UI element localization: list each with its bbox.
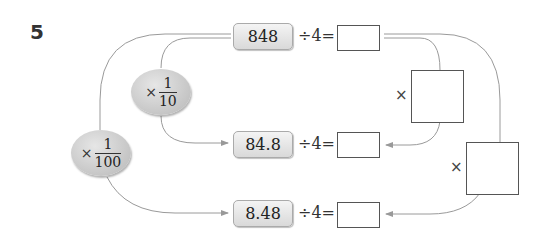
problem-5-diagram: 5 848 ÷4= 84.8 ÷4= 8.48 ÷4= × 1 10 × 1 1…	[0, 0, 549, 244]
value-chip-8-48: 8.48	[233, 200, 293, 227]
problem-number: 5	[30, 20, 44, 44]
answer-box-row1[interactable]	[337, 25, 380, 51]
multiplier-answer-box-2[interactable]	[466, 142, 519, 195]
answer-box-row2[interactable]	[337, 132, 380, 158]
multiplier-oval-one-tenth: × 1 10	[131, 69, 191, 115]
times-symbol: ×	[450, 158, 463, 176]
divide-by-4-label: ÷4=	[298, 134, 335, 153]
multiplier-oval-one-hundredth: × 1 100	[71, 130, 131, 176]
numerator: 1	[103, 137, 112, 152]
times-symbol: ×	[145, 84, 157, 100]
value-chip-84-8: 84.8	[233, 131, 293, 158]
divide-by-4-label: ÷4=	[298, 26, 335, 45]
fraction-one-hundredth: 1 100	[95, 137, 122, 170]
denominator: 10	[159, 94, 177, 109]
multiplier-answer-box-1[interactable]	[411, 70, 464, 123]
times-symbol: ×	[81, 145, 93, 161]
denominator: 100	[95, 155, 122, 170]
divide-by-4-label: ÷4=	[298, 203, 335, 222]
value-chip-848: 848	[233, 23, 293, 50]
times-symbol: ×	[395, 86, 408, 104]
answer-box-row3[interactable]	[337, 202, 380, 228]
fraction-one-tenth: 1 10	[159, 76, 177, 109]
numerator: 1	[163, 76, 172, 91]
